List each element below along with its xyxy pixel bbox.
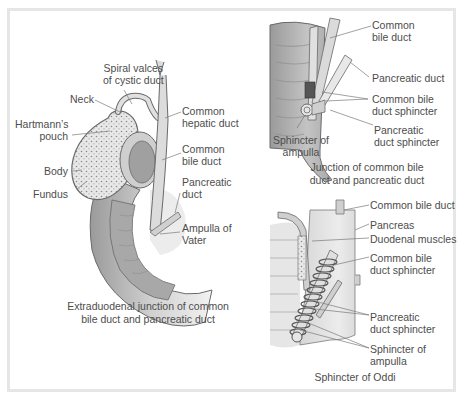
label-hartmanns-pouch: Hartmann’s pouch	[15, 118, 68, 142]
label-junction-sphincter-ampulla-line2: ampulla	[266, 146, 336, 158]
label-junction-cbd-sphincter-line2: duct sphincter	[372, 105, 437, 117]
label-fundus: Fundus	[33, 188, 68, 200]
label-common-hepatic-line1: Common	[182, 105, 239, 117]
label-oddi-pd-sphincter: Pancreatic duct sphincter	[370, 311, 435, 335]
label-ampulla-line2: Vater	[182, 234, 232, 246]
caption-junction-line1: Junction of common bile	[292, 161, 442, 174]
label-oddi-duodenal-muscles: Duodenal muscles	[370, 233, 456, 245]
label-junction-pd-sphincter-line1: Pancreatic	[374, 124, 439, 136]
label-body: Body	[44, 165, 68, 177]
label-common-hepatic-line2: hepatic duct	[182, 117, 239, 129]
label-junction-pancreatic-duct: Pancreatic duct	[372, 72, 444, 84]
label-spiral-valves-line2: of cystic duct	[103, 74, 164, 86]
label-junction-pd-sphincter: Pancreatic duct sphincter	[374, 124, 439, 148]
label-oddi-cbd-sphincter: Common bile duct sphincter	[370, 252, 435, 276]
caption-junction-line2: duct and pancreatic duct	[292, 174, 442, 187]
label-oddi-cbd-sphincter-line2: duct sphincter	[370, 264, 435, 276]
caption-extraduodenal-line1: Extraduodenal junction of common	[58, 300, 238, 313]
label-oddi-pancreas: Pancreas	[370, 219, 414, 231]
label-pancreatic-line1: Pancreatic	[182, 176, 232, 188]
label-junction-sphincter-ampulla: Sphincter of ampulla	[266, 134, 336, 158]
label-oddi-cbd-sphincter-line1: Common bile	[370, 252, 435, 264]
label-pancreatic-line2: duct	[182, 188, 232, 200]
label-junction-pd-sphincter-line2: duct sphincter	[374, 136, 439, 148]
label-spiral-valves-line1: Spiral valces	[103, 62, 164, 74]
label-ampulla-of-vater: Ampulla of Vater	[182, 222, 232, 246]
label-junction-cbd-line1: Common	[372, 19, 415, 31]
label-common-hepatic-duct: Common hepatic duct	[182, 105, 239, 129]
label-common-bile-line1: Common	[182, 143, 225, 155]
label-hartmanns-line1: Hartmann’s	[15, 118, 68, 130]
caption-extraduodenal-line2: bile duct and pancreatic duct	[58, 313, 238, 326]
label-common-bile-line2: bile duct	[182, 155, 225, 167]
caption-extraduodenal: Extraduodenal junction of common bile du…	[58, 300, 238, 326]
label-oddi-sphincter-ampulla: Sphincter of ampulla	[370, 343, 426, 367]
label-oddi-pd-sphincter-line2: duct sphincter	[370, 323, 435, 335]
caption-oddi: Sphincter of Oddi	[305, 371, 405, 384]
label-junction-cbd-sphincter: Common bile duct sphincter	[372, 93, 437, 117]
label-oddi-common-bile-duct: Common bile duct	[370, 199, 455, 211]
label-common-bile-duct: Common bile duct	[182, 143, 225, 167]
label-ampulla-line1: Ampulla of	[182, 222, 232, 234]
label-spiral-valves: Spiral valces of cystic duct	[103, 62, 164, 86]
caption-junction: Junction of common bile duct and pancrea…	[292, 161, 442, 187]
label-oddi-pd-sphincter-line1: Pancreatic	[370, 311, 435, 323]
label-oddi-sphincter-ampulla-line2: ampulla	[370, 355, 426, 367]
label-junction-cbd-sphincter-line1: Common bile	[372, 93, 437, 105]
label-junction-cbd-line2: bile duct	[372, 31, 415, 43]
label-hartmanns-line2: pouch	[15, 130, 68, 142]
label-junction-common-bile-duct: Common bile duct	[372, 19, 415, 43]
label-oddi-sphincter-ampulla-line1: Sphincter of	[370, 343, 426, 355]
label-pancreatic-duct: Pancreatic duct	[182, 176, 232, 200]
label-neck: Neck	[70, 93, 94, 105]
label-junction-sphincter-ampulla-line1: Sphincter of	[266, 134, 336, 146]
